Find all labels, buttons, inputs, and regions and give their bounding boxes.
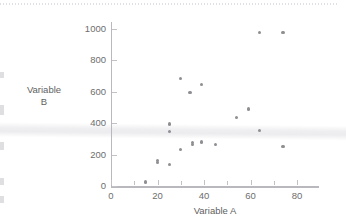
- left-edge-text-sliver: [0, 142, 4, 150]
- y-axis-title-line2: B: [14, 96, 74, 108]
- y-axis-tick: [112, 123, 117, 124]
- y-axis-tick: [112, 92, 117, 93]
- left-edge-text-sliver: [0, 196, 4, 203]
- x-axis-line: [111, 186, 319, 188]
- x-axis-tick-label: 0: [96, 190, 126, 201]
- x-axis-tick-label: 80: [282, 190, 312, 201]
- data-point: [258, 31, 261, 34]
- x-axis-tick-label: 40: [189, 190, 219, 201]
- y-axis-title-line1: Variable: [14, 84, 74, 96]
- left-edge-text-sliver: [0, 178, 4, 185]
- y-axis-tick-label-wrap: 1000: [60, 24, 106, 34]
- top-dotted-rule: [0, 3, 338, 5]
- y-axis-tick-label: 800: [62, 55, 106, 65]
- y-axis-tick-label: 400: [62, 118, 106, 128]
- data-point: [191, 143, 194, 146]
- x-axis-title: Variable A: [111, 205, 319, 216]
- data-point: [179, 148, 182, 151]
- data-point: [214, 143, 217, 146]
- x-axis-tick: [251, 180, 252, 185]
- x-axis-minor-tick: [134, 181, 135, 185]
- data-point: [235, 116, 238, 119]
- y-axis-tick-label-wrap: 400: [60, 118, 106, 128]
- y-axis-tick: [112, 155, 117, 156]
- y-axis-tick: [112, 60, 117, 61]
- x-axis-tick: [204, 180, 205, 185]
- data-point: [281, 31, 284, 34]
- x-axis-tick: [158, 180, 159, 185]
- data-point: [247, 107, 250, 110]
- y-axis-tick-label-wrap: 800: [60, 55, 106, 65]
- data-point: [281, 145, 284, 148]
- y-axis-title: Variable B: [14, 84, 74, 107]
- left-edge-text-sliver: [0, 105, 4, 115]
- x-axis-tick: [297, 180, 298, 185]
- data-point: [156, 161, 159, 164]
- data-point: [200, 140, 203, 143]
- y-axis-line: [111, 22, 112, 187]
- x-axis-minor-tick: [274, 181, 275, 185]
- data-point: [168, 122, 171, 125]
- x-axis-minor-tick: [227, 181, 228, 185]
- y-axis-tick-label: 1000: [62, 24, 106, 34]
- y-axis-tick: [112, 29, 117, 30]
- y-axis-tick: [112, 186, 117, 187]
- background-sweep-band: [0, 122, 346, 141]
- data-point: [168, 130, 171, 133]
- y-axis-tick-label: 200: [62, 150, 106, 160]
- data-point: [188, 91, 191, 94]
- data-point: [258, 129, 261, 132]
- x-axis-minor-tick: [181, 181, 182, 185]
- x-axis-tick-label: 20: [143, 190, 173, 201]
- x-axis-tick-label: 60: [236, 190, 266, 201]
- x-axis-tick: [111, 180, 112, 185]
- data-point: [200, 83, 203, 86]
- data-point: [179, 77, 182, 80]
- data-point: [144, 180, 147, 183]
- left-edge-text-sliver: [0, 72, 4, 78]
- y-axis-tick-label-wrap: 200: [60, 150, 106, 160]
- data-point: [168, 163, 171, 166]
